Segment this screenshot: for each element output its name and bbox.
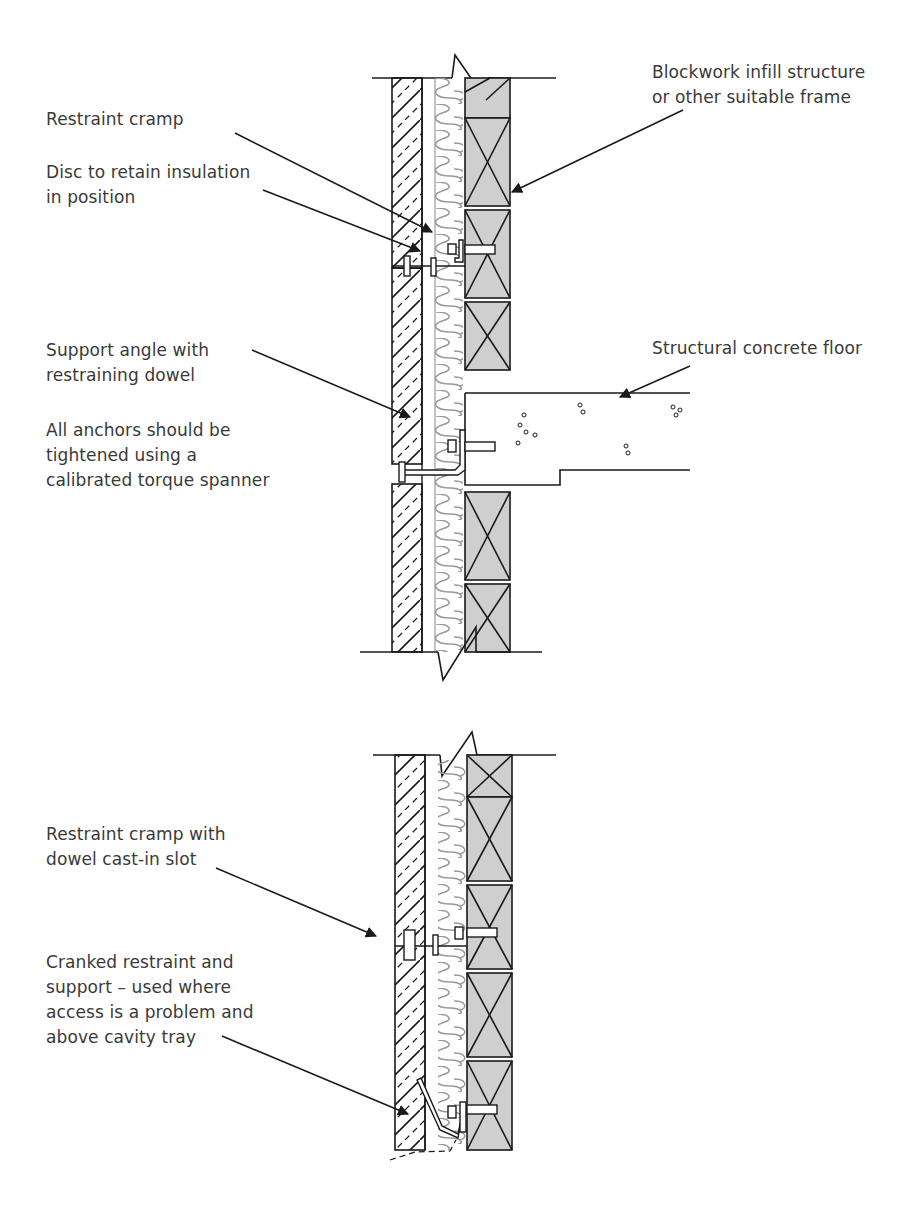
- blockwork-lower: [467, 755, 512, 1150]
- leader-arrow: [216, 868, 376, 936]
- wall-section-drawing: [0, 0, 924, 1207]
- concrete-aggregate: [516, 403, 682, 455]
- leader-arrow: [512, 110, 683, 192]
- lower-section: [216, 732, 556, 1160]
- leader-arrow: [252, 350, 410, 417]
- blockwork-upper: [465, 78, 510, 652]
- upper-section: [235, 55, 690, 680]
- leader-arrow: [222, 1036, 408, 1114]
